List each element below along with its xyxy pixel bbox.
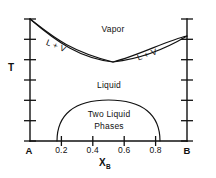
x-axis-title-base: X [99,157,106,168]
region-label-vapor: Vapor [93,25,133,34]
x-axis-title: XB [99,158,111,171]
right-endpoint-label: B [180,146,194,156]
x-tick-label-0: 0.2 [48,146,74,155]
x-tick-label-2: 0.6 [111,146,137,155]
x-axis-title-subscript: B [106,163,111,170]
phase-diagram-figure: T XB A B 0.2 0.4 0.6 0.8 Vapor L + V L +… [0,0,216,178]
left-endpoint-label: A [22,146,36,156]
x-tick-label-3: 0.8 [143,146,169,155]
y-axis-title: T [8,63,14,74]
region-label-two-liquid-line1: Two Liquid [74,110,144,119]
x-tick-label-1: 0.4 [80,146,106,155]
region-label-liquid: Liquid [89,81,129,90]
region-label-two-liquid-line2: Phases [74,122,144,131]
